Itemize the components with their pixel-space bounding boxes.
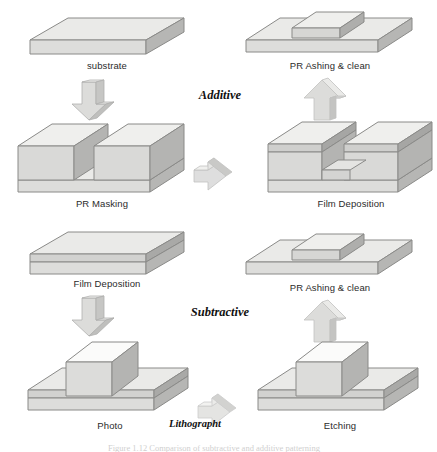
step-pr-masking: PR Masking	[12, 118, 192, 214]
step-pr-ashing-clean-sub: PR Ashing & clean	[240, 232, 420, 298]
film-on-substrate-graphic	[22, 232, 192, 284]
step-film-deposition-add: Film Deposition	[262, 118, 437, 214]
step-pr-ashing-clean-add: PR Ashing & clean	[240, 10, 420, 76]
step-etching: Etching	[252, 338, 428, 434]
step-label-substrate: substrate	[22, 60, 192, 71]
phase-label-subtractive: Subtractive	[155, 305, 285, 320]
arrow-pr-masking-to-film-deposition	[192, 156, 236, 198]
step-film-deposition-sub: Film Deposition	[22, 232, 192, 294]
figure-caption: Figure 1.12 Comparison of subtractive an…	[0, 443, 428, 452]
down-arrow-3d-icon	[62, 296, 126, 340]
step-label-film-deposition-add: Film Deposition	[262, 198, 437, 209]
substrate-slab-graphic	[22, 14, 192, 66]
film-over-resist-graphic	[262, 118, 437, 202]
phase-label-lithography: Lithographt	[140, 418, 250, 429]
patterned-film-graphic	[240, 10, 420, 66]
step-label-pr-masking: PR Masking	[12, 198, 192, 209]
photo-resist-block-graphic	[22, 338, 198, 424]
step-label-etching: Etching	[252, 420, 428, 431]
phase-label-additive: Additive	[160, 88, 280, 103]
step-label-film-deposition-sub: Film Deposition	[22, 278, 192, 289]
step-label-pr-ashing-clean-add: PR Ashing & clean	[240, 60, 420, 71]
arrow-film-deposition-to-photo	[62, 296, 126, 340]
etched-feature-graphic	[252, 338, 428, 424]
right-arrow-3d-icon	[192, 156, 236, 198]
patterned-film-graphic	[240, 232, 420, 288]
step-substrate: substrate	[22, 14, 192, 76]
pr-masking-graphic	[12, 118, 192, 202]
step-label-pr-ashing-clean-sub: PR Ashing & clean	[240, 282, 420, 293]
